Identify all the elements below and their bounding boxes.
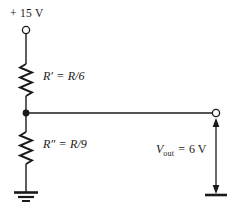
output-voltage-label: Vout=6 V <box>156 143 206 155</box>
output-equals: = <box>178 142 185 156</box>
output-value: 6 V <box>189 142 206 156</box>
resistor-top-value: R/6 <box>68 69 85 83</box>
resistor-bottom-label: R″=R/9 <box>43 138 87 150</box>
ground-left-icon <box>14 193 38 202</box>
resistor-top-equals: = <box>57 69 64 83</box>
circuit-diagram-figure: + 15 V R′=R/6 R″=R/9 Vout=6 V <box>0 0 248 216</box>
output-terminal-icon <box>212 109 219 116</box>
output-arrowhead-down <box>213 185 220 194</box>
schematic-drawing <box>0 0 248 216</box>
supply-voltage-label: + 15 V <box>10 8 44 20</box>
output-arrowhead-up <box>213 118 220 127</box>
resistor-bottom-symbol: R″ <box>43 137 55 151</box>
resistor-top-symbol: R′ <box>43 69 53 83</box>
output-subscript: out <box>163 149 174 158</box>
resistor-bottom-value: R/9 <box>70 137 87 151</box>
resistor-bottom-equals: = <box>59 137 66 151</box>
supply-terminal-icon <box>22 26 29 33</box>
resistor-top-icon <box>20 64 32 96</box>
resistor-bottom-icon <box>20 132 32 164</box>
resistor-top-label: R′=R/6 <box>43 70 84 82</box>
